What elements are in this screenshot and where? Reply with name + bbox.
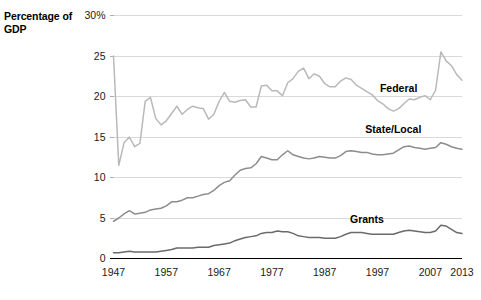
- x-tick-label: 1987: [313, 266, 337, 278]
- series-label-state-local: State/Local: [365, 123, 421, 135]
- x-tick-label: 1967: [207, 266, 231, 278]
- x-tick-label: 1997: [366, 266, 390, 278]
- y-tick-labels-group: 051015202530%: [84, 9, 105, 264]
- y-tick-label: 10: [94, 171, 106, 183]
- series-line-grants: [114, 225, 463, 253]
- series-line-state-local: [114, 143, 463, 222]
- y-tick-label: 0: [100, 252, 106, 264]
- y-tick-label: 30%: [84, 9, 105, 21]
- x-tick-labels-group: 19471957196719771987199720072013: [102, 266, 474, 278]
- x-tick-label: 1957: [155, 266, 179, 278]
- line-chart-plot: 051015202530% 19471957196719771987199720…: [0, 0, 481, 300]
- x-tick-label: 2007: [419, 266, 443, 278]
- y-tick-label: 25: [94, 50, 106, 62]
- gridlines-group: [114, 16, 463, 219]
- chart-figure: Percentage of GDP 051015202530% 19471957…: [0, 0, 481, 300]
- series-label-grants: Grants: [350, 213, 384, 225]
- y-tick-label: 15: [94, 131, 106, 143]
- x-tick-label: 1977: [260, 266, 284, 278]
- y-tick-marks-group: [110, 16, 114, 259]
- x-tick-label: 2013: [450, 266, 474, 278]
- x-tick-label: 1947: [102, 266, 126, 278]
- y-tick-label: 5: [100, 212, 106, 224]
- series-label-federal: Federal: [380, 82, 417, 94]
- y-tick-label: 20: [94, 90, 106, 102]
- series-line-federal: [114, 52, 463, 165]
